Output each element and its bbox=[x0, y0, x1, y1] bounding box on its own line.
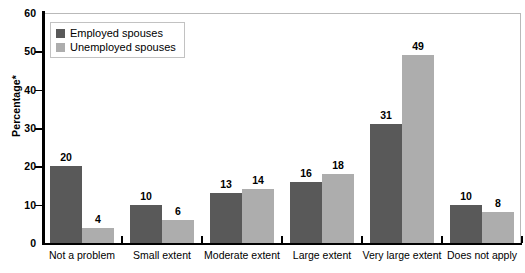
bar bbox=[370, 124, 402, 243]
bar-value-label: 4 bbox=[82, 214, 114, 225]
bar bbox=[322, 174, 354, 243]
bar-value-label: 20 bbox=[50, 152, 82, 163]
legend-item-label: Unemployed spouses bbox=[70, 42, 176, 53]
legend-item: Employed spouses bbox=[56, 26, 176, 40]
y-axis-title: Percentage* bbox=[10, 46, 22, 166]
bar-value-label: 18 bbox=[322, 160, 354, 171]
y-axis-tick-mark bbox=[35, 90, 42, 92]
y-axis-tick-label: 60 bbox=[0, 8, 36, 19]
legend-item: Unemployed spouses bbox=[56, 40, 176, 54]
bar-chart: Percentage* 0102030405060 20410613141618… bbox=[0, 0, 525, 273]
legend: Employed spouses Unemployed spouses bbox=[50, 22, 185, 58]
x-axis-tick-label: Not a problem bbox=[42, 250, 122, 261]
x-axis-tick-label: Very large extent bbox=[362, 250, 442, 261]
y-axis-tick-mark bbox=[35, 205, 42, 207]
bar bbox=[402, 55, 434, 243]
y-axis-tick-label: 20 bbox=[0, 161, 36, 172]
bar-value-label: 10 bbox=[450, 191, 482, 202]
bar-value-label: 13 bbox=[210, 179, 242, 190]
x-axis-tick-label: Does not apply bbox=[442, 250, 522, 261]
bar-value-label: 10 bbox=[130, 191, 162, 202]
y-axis-tick-label: 0 bbox=[0, 238, 36, 249]
legend-item-label: Employed spouses bbox=[70, 28, 163, 39]
y-axis-tick-label: 50 bbox=[0, 46, 36, 57]
y-axis-tick-mark bbox=[35, 166, 42, 168]
bar-value-label: 31 bbox=[370, 110, 402, 121]
x-axis-tick-label: Small extent bbox=[122, 250, 202, 261]
bar bbox=[162, 220, 194, 243]
bar bbox=[50, 166, 82, 243]
bar-value-label: 6 bbox=[162, 206, 194, 217]
bar bbox=[82, 228, 114, 243]
bar-value-label: 14 bbox=[242, 175, 274, 186]
bar bbox=[210, 193, 242, 243]
bar-value-label: 16 bbox=[290, 168, 322, 179]
x-axis-tick-label: Moderate extent bbox=[202, 250, 282, 261]
y-axis-tick-label: 30 bbox=[0, 123, 36, 134]
bar-value-label: 49 bbox=[402, 41, 434, 52]
bar bbox=[130, 205, 162, 243]
bar bbox=[450, 205, 482, 243]
bar bbox=[242, 189, 274, 243]
bar-value-label: 8 bbox=[482, 198, 514, 209]
y-axis-tick-mark bbox=[35, 51, 42, 53]
bar bbox=[290, 182, 322, 243]
y-axis-tick-label: 40 bbox=[0, 85, 36, 96]
legend-swatch-icon bbox=[56, 29, 65, 38]
legend-swatch-icon bbox=[56, 43, 65, 52]
x-axis-tick-label: Large extent bbox=[282, 250, 362, 261]
y-axis-tick-mark bbox=[35, 128, 42, 130]
bar bbox=[482, 212, 514, 243]
y-axis-tick-label: 10 bbox=[0, 200, 36, 211]
